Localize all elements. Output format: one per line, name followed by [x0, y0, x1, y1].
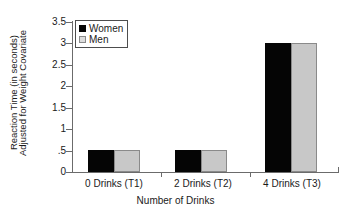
y-tick-label-2-5: 2.5	[36, 60, 66, 70]
bar-women-2-drinks	[175, 150, 201, 172]
legend-swatch-women-icon	[79, 25, 86, 32]
legend-item-women: Women	[79, 23, 123, 34]
legend-item-men: Men	[79, 34, 123, 45]
legend-swatch-men-icon	[79, 36, 86, 43]
bar-women-0-drinks	[88, 150, 114, 172]
y-tick-label-0: 0	[36, 167, 66, 177]
x-axis-tick-2	[250, 172, 251, 177]
y-axis-title-line-2: Adjusted for Weight Covariate	[18, 30, 28, 156]
x-axis-tick-1	[161, 172, 162, 177]
x-tick-label-4-drinks: 4 Drinks (T3)	[263, 179, 321, 189]
y-tick-label-3-5: 3.5	[36, 17, 66, 27]
y-axis-title: Reaction Time (in seconds) Adjusted for …	[0, 0, 36, 186]
legend-label-men: Men	[89, 35, 108, 45]
x-axis-title: Number of Drinks	[0, 196, 351, 206]
y-tick-label-1-5: 1.5	[36, 103, 66, 113]
y-axis-tick-labels: 3.5 3 2.5 2 1.5 1 .5 0	[36, 0, 66, 217]
y-tick-label-3: 3	[36, 38, 66, 48]
y-tick-label-1: 1	[36, 124, 66, 134]
bar-women-4-drinks	[265, 43, 291, 172]
legend-label-women: Women	[89, 24, 123, 34]
x-tick-label-0-drinks: 0 Drinks (T1)	[85, 179, 143, 189]
x-axis-line	[72, 172, 339, 173]
bar-men-0-drinks	[114, 150, 140, 172]
legend: Women Men	[75, 20, 128, 48]
y-tick-label-2: 2	[36, 81, 66, 91]
bar-men-4-drinks	[291, 43, 317, 172]
x-tick-label-2-drinks: 2 Drinks (T2)	[174, 179, 232, 189]
bar-chart-figure: Reaction Time (in seconds) Adjusted for …	[0, 0, 351, 217]
bar-men-2-drinks	[201, 150, 227, 172]
y-tick-label-0-5: .5	[36, 146, 66, 156]
